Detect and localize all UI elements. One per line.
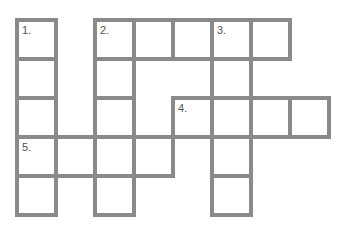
crossword-cell[interactable] — [93, 135, 136, 178]
crossword-cell[interactable] — [171, 18, 214, 61]
clue-number: 5. — [22, 141, 31, 153]
crossword-cell[interactable]: 5. — [15, 135, 58, 178]
clue-number: 4. — [178, 102, 187, 114]
crossword-cell[interactable] — [210, 174, 253, 217]
crossword-cell[interactable] — [93, 57, 136, 100]
crossword-cell[interactable] — [210, 57, 253, 100]
crossword-cell[interactable] — [93, 174, 136, 217]
crossword-cell[interactable] — [249, 18, 292, 61]
crossword-cell[interactable] — [210, 96, 253, 139]
crossword-cell[interactable]: 2. — [93, 18, 136, 61]
crossword-grid: 1.5.2.3.4. — [0, 0, 348, 235]
clue-number: 1. — [22, 24, 31, 36]
crossword-cell[interactable] — [93, 96, 136, 139]
crossword-cell[interactable] — [15, 57, 58, 100]
crossword-cell[interactable] — [15, 174, 58, 217]
crossword-cell[interactable] — [288, 96, 331, 139]
crossword-cell[interactable]: 3. — [210, 18, 253, 61]
crossword-cell[interactable]: 4. — [171, 96, 214, 139]
crossword-cell[interactable] — [54, 135, 97, 178]
crossword-cell[interactable] — [210, 135, 253, 178]
crossword-cell[interactable] — [15, 96, 58, 139]
crossword-cell[interactable] — [249, 96, 292, 139]
clue-number: 3. — [217, 24, 226, 36]
crossword-cell[interactable]: 1. — [15, 18, 58, 61]
crossword-cell[interactable] — [132, 18, 175, 61]
crossword-cell[interactable] — [132, 135, 175, 178]
clue-number: 2. — [100, 24, 109, 36]
